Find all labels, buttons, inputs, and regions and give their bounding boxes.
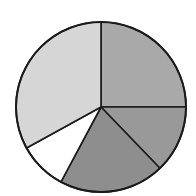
pie-slice-1 — [101, 22, 186, 107]
pie-chart — [0, 0, 196, 196]
